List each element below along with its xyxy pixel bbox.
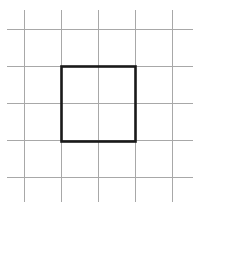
figure-container <box>0 0 230 259</box>
figure-background <box>0 0 230 259</box>
geometry-figure-svg <box>0 0 230 259</box>
